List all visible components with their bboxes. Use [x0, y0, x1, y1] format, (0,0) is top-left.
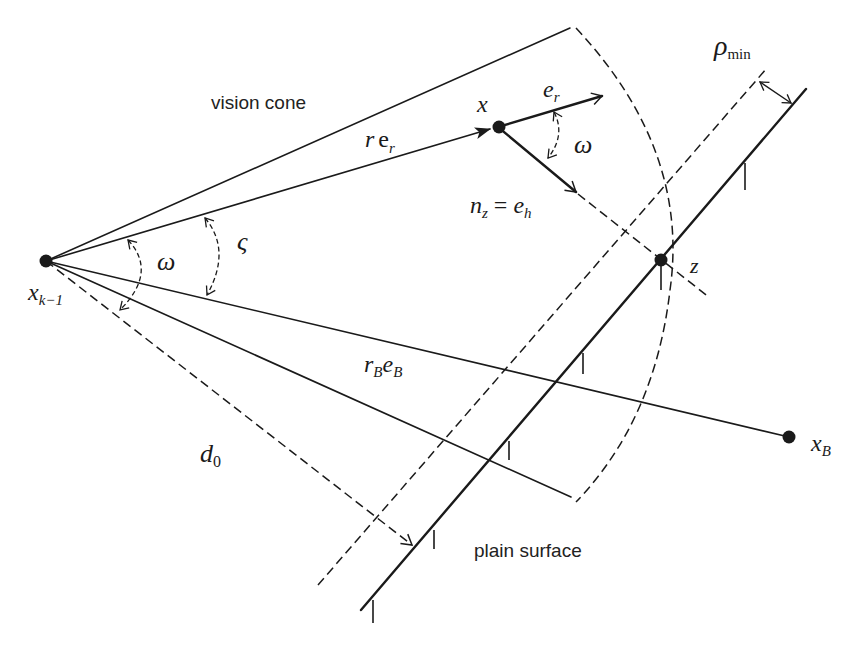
omega-angle-arc-vector: [548, 112, 559, 158]
label-d0: d0: [200, 439, 221, 470]
r-er-vector-line: [46, 129, 490, 261]
label-varsigma: ς: [237, 227, 248, 256]
label-rB-eB: rBeB: [364, 351, 402, 380]
plain-surface-label: plain surface: [474, 540, 582, 561]
cone-upper-boundary: [46, 28, 570, 261]
vision-cone-label: vision cone: [211, 92, 306, 113]
label-rho-min: ρmin: [713, 30, 751, 62]
label-z: z: [689, 253, 699, 278]
label-nz-equals-eh: nz=eh: [470, 192, 532, 221]
point-x-k-minus-1: [40, 255, 53, 268]
label-x-k-minus-1: xk−1: [27, 279, 63, 308]
cone-lower-boundary: [46, 261, 571, 497]
vision-cone-diagram: vision cone plain surface xk−1 x z xB re…: [0, 0, 861, 647]
label-r-er: rer: [365, 126, 395, 156]
label-x: x: [476, 91, 488, 117]
label-x-B: xB: [810, 430, 831, 459]
point-x-B: [783, 431, 796, 444]
label-omega-vector: ω: [574, 130, 592, 159]
n-z-vector: [498, 127, 576, 192]
rho-min-arrow: [760, 82, 791, 103]
varsigma-angle-arc: [205, 218, 219, 295]
label-omega-cone: ω: [157, 247, 175, 276]
point-x: [493, 121, 506, 134]
rB-eB-line: [46, 261, 789, 437]
point-z: [655, 254, 668, 267]
plain-surface-line: [361, 89, 806, 610]
label-e-r: er: [543, 76, 560, 105]
